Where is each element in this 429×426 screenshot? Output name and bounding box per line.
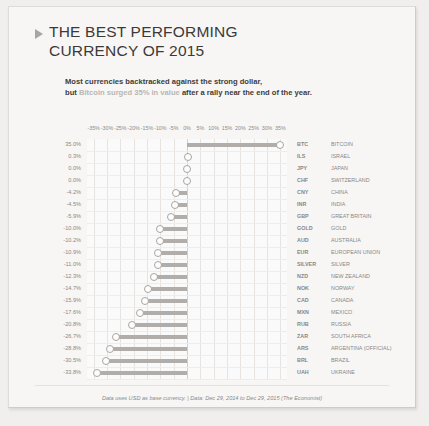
bar: [148, 287, 187, 291]
value-label: 35.0%: [9, 141, 81, 147]
value-label: -10.9%: [9, 249, 81, 255]
data-point-marker: [183, 165, 191, 173]
page-title: THE BEST PERFORMINGCURRENCY OF 2015: [35, 23, 375, 60]
value-label: -4.5%: [9, 201, 81, 207]
value-label: -17.6%: [9, 309, 81, 315]
currency-ticker-label: ZAR: [297, 333, 327, 339]
data-point-marker: [154, 249, 162, 257]
value-label: 0.3%: [9, 153, 81, 159]
data-point-marker: [128, 321, 136, 329]
currency-ticker-label: CHF: [297, 177, 327, 183]
currency-country-label: SOUTH AFRICA: [331, 333, 416, 339]
gridline-horizontal: [87, 283, 287, 284]
value-label: -30.5%: [9, 357, 81, 363]
x-axis-tick-label: -25%: [114, 125, 126, 135]
x-axis-tick-label: 15%: [222, 125, 233, 135]
currency-ticker-label: GOLD: [297, 225, 327, 231]
currency-country-label: SILVER: [331, 261, 416, 267]
data-point-marker: [171, 201, 179, 209]
currency-country-label: NEW ZEALAND: [331, 273, 416, 279]
x-axis-tick-label: 20%: [235, 125, 246, 135]
bar: [158, 263, 187, 267]
x-axis-tick-label: -15%: [141, 125, 153, 135]
data-point-marker: [276, 141, 284, 149]
gridline-horizontal: [87, 151, 287, 152]
gridline-horizontal: [87, 295, 287, 296]
bar: [187, 143, 280, 147]
gridline-horizontal: [87, 223, 287, 224]
value-label: -12.3%: [9, 273, 81, 279]
bar: [116, 335, 187, 339]
subtitle-suffix: after a rally near the end of the year.: [180, 88, 312, 97]
data-point-marker: [150, 273, 158, 281]
currency-country-label: RUSSIA: [331, 321, 416, 327]
gridline-horizontal: [87, 247, 287, 248]
data-point-marker: [172, 189, 180, 197]
bar: [145, 299, 187, 303]
subtitle-line-1: Most currencies backtracked against the …: [65, 77, 262, 86]
value-label: -20.8%: [9, 321, 81, 327]
x-axis-tick-label: 10%: [208, 125, 219, 135]
data-point-marker: [154, 261, 162, 269]
currency-ticker-label: RUB: [297, 321, 327, 327]
x-axis-tick-label: -10%: [154, 125, 166, 135]
currency-ticker-label: JPY: [297, 165, 327, 171]
bar: [97, 371, 187, 375]
x-axis-tick-label: 25%: [248, 125, 259, 135]
bar: [140, 311, 187, 315]
bar: [132, 323, 187, 327]
infographic-card: THE BEST PERFORMINGCURRENCY OF 2015 Most…: [8, 6, 416, 408]
value-label: -10.2%: [9, 237, 81, 243]
value-label: 0.0%: [9, 177, 81, 183]
bar: [106, 359, 187, 363]
currency-country-label: NORWAY: [331, 285, 416, 291]
currency-ticker-label: NZD: [297, 273, 327, 279]
value-label: 0.0%: [9, 165, 81, 171]
currency-country-label: EUROPEAN UNION: [331, 249, 416, 255]
data-point-marker: [156, 225, 164, 233]
currency-ticker-label: BTC: [297, 141, 327, 147]
currency-country-label: BRAZIL: [331, 357, 416, 363]
bar: [160, 227, 187, 231]
gridline-horizontal: [87, 379, 287, 380]
gridline-horizontal: [87, 307, 287, 308]
currency-country-label: ARGENTINA (OFFICIAL): [331, 345, 416, 351]
currency-ticker-label: NOK: [297, 285, 327, 291]
gridline-horizontal: [87, 211, 287, 212]
x-axis-tick-label: 35%: [275, 125, 286, 135]
currency-ticker-label: ARS: [297, 345, 327, 351]
plot-area: [87, 139, 287, 379]
bar: [160, 239, 187, 243]
gridline-horizontal: [87, 259, 287, 260]
currency-ticker-label: ILS: [297, 153, 327, 159]
currency-country-label: CHINA: [331, 189, 416, 195]
value-label: -28.8%: [9, 345, 81, 351]
currency-country-label: SWITZERLAND: [331, 177, 416, 183]
currency-country-label: JAPAN: [331, 165, 416, 171]
currency-country-label: BITCOIN: [331, 141, 416, 147]
currency-ticker-label: GBP: [297, 213, 327, 219]
gridline-horizontal: [87, 175, 287, 176]
gridline-horizontal: [87, 199, 287, 200]
currency-ticker-label: BRL: [297, 357, 327, 363]
data-point-marker: [106, 345, 114, 353]
x-axis-tick-label: 5%: [197, 125, 205, 135]
value-label: -15.9%: [9, 297, 81, 303]
currency-country-label: CANADA: [331, 297, 416, 303]
title-text: THE BEST PERFORMINGCURRENCY OF 2015: [49, 23, 238, 60]
gridline-horizontal: [87, 355, 287, 356]
data-point-marker: [183, 177, 191, 185]
currency-country-label: INDIA: [331, 201, 416, 207]
source-note: Data uses USD as base currency. | Data: …: [9, 395, 415, 401]
x-axis-tick-label: -5%: [169, 125, 178, 135]
data-point-marker: [184, 153, 192, 161]
value-label: -11.0%: [9, 261, 81, 267]
gridline-horizontal: [87, 271, 287, 272]
x-axis-tick-label: -35%: [87, 125, 99, 135]
currency-ticker-label: INR: [297, 201, 327, 207]
data-point-marker: [136, 309, 144, 317]
data-point-marker: [102, 357, 110, 365]
footer-divider: [35, 385, 389, 386]
bar: [158, 251, 187, 255]
bar: [110, 347, 187, 351]
